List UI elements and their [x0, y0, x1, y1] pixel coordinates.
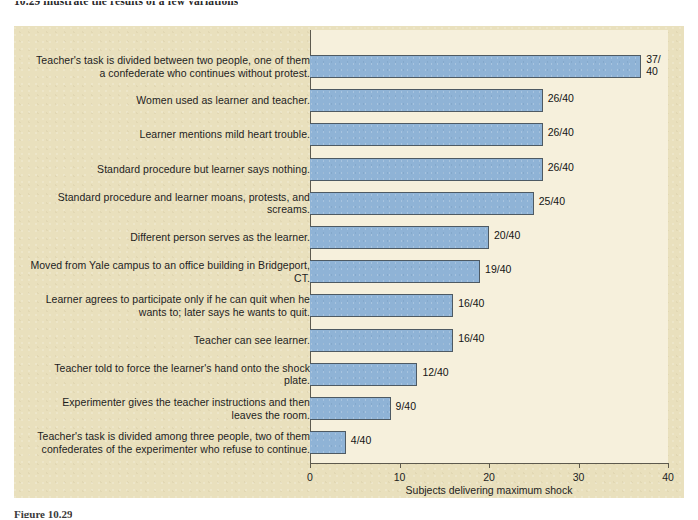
bar-row-label: Women used as learner and teacher.: [30, 94, 310, 107]
bar-row: Standard procedure and learner moans, pr…: [14, 189, 684, 219]
bar-row-label: Learner agrees to participate only if he…: [30, 293, 310, 318]
bar-row: Teacher told to force the learner's hand…: [14, 360, 684, 390]
bar-track: 25/40: [310, 192, 668, 215]
bar-row-label: Moved from Yale campus to an office buil…: [30, 259, 310, 284]
bar[interactable]: [310, 363, 417, 386]
bar-value-label: 9/40: [396, 401, 416, 413]
bar[interactable]: [310, 226, 489, 249]
bar[interactable]: [310, 55, 641, 78]
x-axis-tick: [579, 463, 580, 468]
bar-row: Teacher can see learner.16/40: [14, 326, 684, 356]
x-axis-tick-label: 30: [573, 471, 585, 483]
x-axis-tick-label: 20: [483, 471, 495, 483]
x-axis: 010203040: [310, 463, 668, 464]
bar-track: 26/40: [310, 89, 668, 112]
bar-rows: Teacher's task is divided between two pe…: [14, 52, 684, 462]
x-axis-tick-label: 10: [394, 471, 406, 483]
bar-row: Learner mentions mild heart trouble.26/4…: [14, 120, 684, 150]
bar-row: Learner agrees to participate only if he…: [14, 291, 684, 321]
bar-track: 9/40: [310, 397, 668, 420]
bar[interactable]: [310, 158, 543, 181]
x-axis-tick: [489, 463, 490, 468]
bar-row: Standard procedure but learner says noth…: [14, 155, 684, 185]
bar-row-label: Experimenter gives the teacher instructi…: [30, 396, 310, 421]
bar-row: Women used as learner and teacher.26/40: [14, 86, 684, 116]
bar-row-label: Standard procedure but learner says noth…: [30, 163, 310, 176]
page-text-above-figure: 10.29 illustrate the results of a few va…: [14, 0, 238, 7]
x-axis-tick-label: 0: [307, 471, 313, 483]
bar-value-label: 16/40: [458, 298, 484, 310]
bar-row: Teacher's task is divided between two pe…: [14, 52, 684, 82]
x-axis-tick: [668, 463, 669, 468]
bar-row: Moved from Yale campus to an office buil…: [14, 257, 684, 287]
x-axis-tick: [310, 463, 311, 468]
bar-track: 4/40: [310, 431, 668, 454]
bar-row-label: Learner mentions mild heart trouble.: [30, 128, 310, 141]
bar-row: Teacher's task is divided among three pe…: [14, 428, 684, 458]
x-axis-tick-label: 40: [662, 471, 674, 483]
bar-value-label: 16/40: [458, 333, 484, 345]
bar-row-label: Teacher's task is divided among three pe…: [30, 430, 310, 455]
bar-value-label: 19/40: [485, 264, 511, 276]
bar-track: 26/40: [310, 158, 668, 181]
bar[interactable]: [310, 260, 480, 283]
bar-value-label: 25/40: [539, 196, 565, 208]
x-axis-title: Subjects delivering maximum shock: [310, 484, 668, 496]
x-axis-tick: [400, 463, 401, 468]
bar-value-label: 26/40: [548, 93, 574, 105]
figure-panel: Teacher's task is divided between two pe…: [14, 26, 684, 498]
bar[interactable]: [310, 123, 543, 146]
bar-track: 16/40: [310, 329, 668, 352]
bar[interactable]: [310, 294, 453, 317]
bar-row: Different person serves as the learner.2…: [14, 223, 684, 253]
bar[interactable]: [310, 431, 346, 454]
bar-track: 12/40: [310, 363, 668, 386]
bar-value-label: 26/40: [548, 127, 574, 139]
bar[interactable]: [310, 397, 391, 420]
figure-caption: Figure 10.29: [14, 508, 72, 520]
bar-track: 16/40: [310, 294, 668, 317]
bar-track: 20/40: [310, 226, 668, 249]
bar-row-label: Teacher's task is divided between two pe…: [30, 54, 310, 79]
bar-value-label: 20/40: [494, 230, 520, 242]
bar-value-label: 12/40: [422, 367, 448, 379]
bar-value-label: 37/ 40: [646, 54, 661, 77]
bar-row-label: Teacher told to force the learner's hand…: [30, 362, 310, 387]
bar-track: 37/ 40: [310, 55, 668, 78]
bar[interactable]: [310, 89, 543, 112]
bar-value-label: 26/40: [548, 162, 574, 174]
bar-track: 19/40: [310, 260, 668, 283]
bar-value-label: 4/40: [351, 435, 371, 447]
bar-row-label: Teacher can see learner.: [30, 334, 310, 347]
bar-row: Experimenter gives the teacher instructi…: [14, 394, 684, 424]
bar-track: 26/40: [310, 123, 668, 146]
bar[interactable]: [310, 329, 453, 352]
bar[interactable]: [310, 192, 534, 215]
bar-row-label: Standard procedure and learner moans, pr…: [30, 191, 310, 216]
bar-row-label: Different person serves as the learner.: [30, 231, 310, 244]
